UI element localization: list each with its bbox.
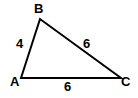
triangle-abc: [21, 19, 121, 78]
vertex-label-a: A: [10, 75, 19, 88]
side-label-ac: 6: [64, 80, 71, 93]
vertex-label-c: C: [121, 75, 130, 88]
vertex-label-b: B: [34, 2, 43, 15]
side-label-bc: 6: [83, 37, 90, 50]
side-label-ab: 4: [16, 37, 23, 50]
